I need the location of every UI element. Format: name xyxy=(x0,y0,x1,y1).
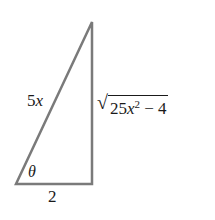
right-triangle-diagram: 5x θ 2 √ 25x2 − 4 xyxy=(0,0,215,220)
base-label: 2 xyxy=(48,188,57,205)
opposite-side-label: √ 25x2 − 4 xyxy=(97,93,168,117)
hypotenuse-label: 5x xyxy=(27,92,43,109)
radical-sign: √ xyxy=(97,92,108,112)
radicand: 25x2 − 4 xyxy=(108,95,168,117)
angle-theta-label: θ xyxy=(28,164,36,180)
